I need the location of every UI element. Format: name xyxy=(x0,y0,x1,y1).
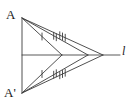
geometry-figure: A A' l xyxy=(0,0,135,109)
geometry-canvas xyxy=(0,0,135,109)
point-label-a-prime: A' xyxy=(4,86,16,99)
line-label-l: l xyxy=(122,45,125,57)
segments-group xyxy=(22,18,120,93)
point-label-a: A xyxy=(6,8,15,21)
segment-A-prime-to-P2 xyxy=(22,55,88,93)
segment-A-to-P2 xyxy=(22,18,88,55)
